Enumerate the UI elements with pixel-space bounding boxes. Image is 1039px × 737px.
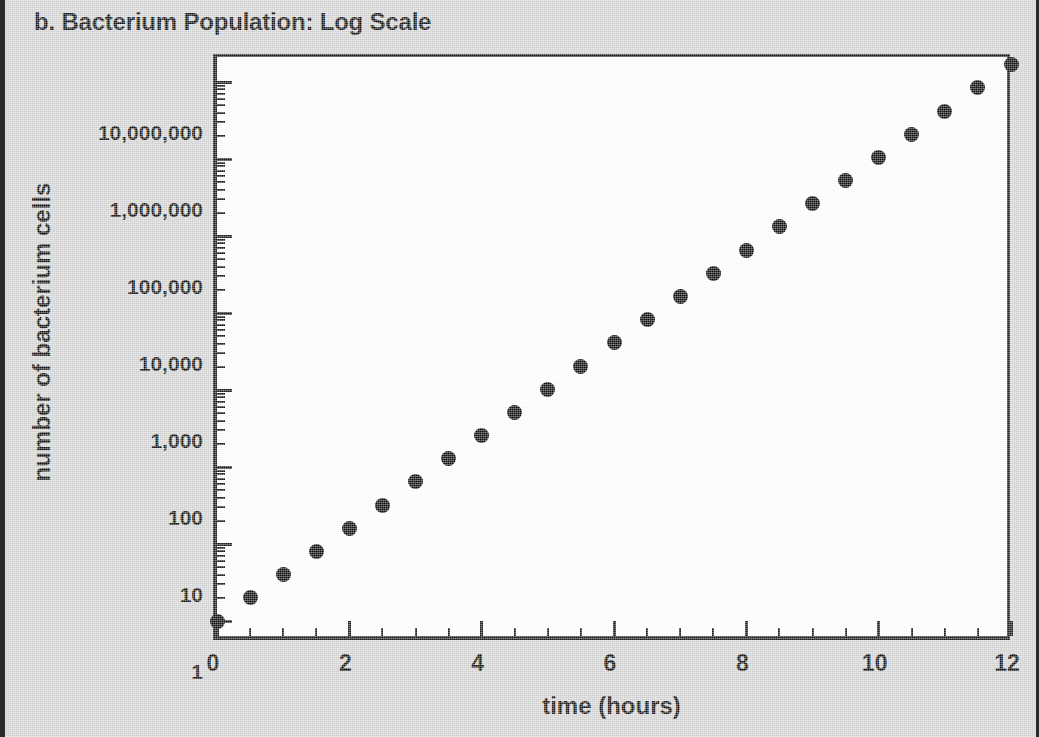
data-point — [309, 544, 324, 559]
y-axis-minor-tick — [217, 247, 225, 249]
y-axis-minor-tick — [217, 443, 225, 445]
y-axis-minor-tick — [217, 478, 225, 480]
y-axis-minor-tick — [217, 470, 225, 472]
data-point — [276, 567, 291, 582]
y-axis-minor-tick — [217, 473, 225, 475]
data-point — [772, 219, 787, 234]
y-axis-tick-labels: 1101001,00010,000100,0001,000,00010,000,… — [5, 54, 213, 640]
y-axis-major-tick — [217, 389, 232, 392]
y-axis-minor-tick — [217, 550, 225, 552]
y-axis-minor-tick — [217, 189, 225, 191]
data-point — [640, 312, 655, 327]
plot-area — [213, 54, 1010, 640]
y-axis-tick-label: 10 — [180, 583, 213, 607]
plot-inner — [217, 57, 1007, 636]
y-axis-tick-label: 100 — [168, 506, 213, 530]
x-axis-tick-label: 12 — [994, 650, 1020, 677]
y-axis-minor-tick — [217, 352, 225, 354]
y-axis-minor-tick — [217, 93, 225, 95]
x-axis-major-tick — [613, 621, 616, 636]
y-axis-minor-tick — [217, 412, 225, 414]
y-axis-minor-tick — [217, 242, 225, 244]
x-axis-major-tick — [348, 621, 351, 636]
x-axis-minor-tick — [547, 628, 549, 636]
data-point — [573, 359, 588, 374]
y-axis-minor-tick — [217, 366, 225, 368]
figure-panel: b. Bacterium Population: Log Scale numbe… — [0, 0, 1039, 737]
data-point — [210, 614, 225, 629]
y-axis-minor-tick — [217, 483, 225, 485]
y-axis-tick-label: 1,000,000 — [110, 198, 213, 222]
x-axis-minor-tick — [415, 628, 417, 636]
x-axis-tick-label: 0 — [207, 650, 220, 677]
y-axis-minor-tick — [217, 393, 225, 395]
y-axis-minor-tick — [217, 170, 225, 172]
y-axis-minor-tick — [217, 175, 225, 177]
data-point — [408, 474, 423, 489]
x-axis-major-tick — [877, 621, 880, 636]
y-axis-major-tick — [217, 81, 232, 84]
x-axis-minor-tick — [812, 628, 814, 636]
x-axis-minor-tick — [282, 628, 284, 636]
y-axis-minor-tick — [217, 401, 225, 403]
y-axis-minor-tick — [217, 181, 225, 183]
x-axis-tick-label: 10 — [862, 650, 888, 677]
data-point — [904, 127, 919, 142]
x-axis-tick-label: 6 — [604, 650, 617, 677]
y-axis-tick-label: 100,000 — [127, 275, 213, 299]
y-axis-major-tick — [217, 235, 232, 238]
data-point — [375, 498, 390, 513]
data-point — [871, 150, 886, 165]
y-axis-tick-label: 10,000 — [139, 352, 213, 376]
x-axis-minor-tick — [514, 628, 516, 636]
y-axis-minor-tick — [217, 88, 225, 90]
x-axis-major-tick — [1010, 621, 1013, 636]
y-axis-major-tick — [217, 543, 232, 546]
y-axis-major-tick — [217, 466, 232, 469]
y-axis-tick-label: 10,000,000 — [98, 121, 213, 145]
y-axis-minor-tick — [217, 583, 225, 585]
y-axis-minor-tick — [217, 85, 225, 87]
data-point — [474, 428, 489, 443]
data-point — [673, 289, 688, 304]
data-point — [607, 335, 622, 350]
y-axis-minor-tick — [217, 104, 225, 106]
x-axis-minor-tick — [315, 628, 317, 636]
data-point — [1004, 57, 1019, 72]
x-axis-minor-tick — [845, 628, 847, 636]
y-axis-minor-tick — [217, 266, 225, 268]
data-point — [540, 382, 555, 397]
chart-title: b. Bacterium Population: Log Scale — [34, 8, 431, 36]
data-point — [243, 590, 258, 605]
x-axis-major-tick — [745, 621, 748, 636]
x-axis-minor-tick — [249, 628, 251, 636]
data-point — [739, 243, 754, 258]
y-axis-minor-tick — [217, 406, 225, 408]
y-axis-minor-tick — [217, 566, 225, 568]
y-axis-minor-tick — [217, 506, 225, 508]
data-point — [441, 451, 456, 466]
x-axis-minor-tick — [679, 628, 681, 636]
x-axis-minor-tick — [580, 628, 582, 636]
y-axis-minor-tick — [217, 165, 225, 167]
y-axis-minor-tick — [217, 520, 225, 522]
y-axis-minor-tick — [217, 420, 225, 422]
data-point — [507, 405, 522, 420]
y-axis-tick-label: 1,000 — [150, 429, 213, 453]
data-point — [970, 80, 985, 95]
y-axis-minor-tick — [217, 239, 225, 241]
y-axis-minor-tick — [217, 329, 225, 331]
y-axis-minor-tick — [217, 258, 225, 260]
data-point — [706, 266, 721, 281]
y-axis-minor-tick — [217, 343, 225, 345]
y-axis-minor-tick — [217, 121, 225, 123]
y-axis-minor-tick — [217, 555, 225, 557]
y-axis-minor-tick — [217, 319, 225, 321]
x-axis-tick-label: 2 — [339, 650, 352, 677]
y-axis-minor-tick — [217, 112, 225, 114]
data-point — [838, 173, 853, 188]
x-axis-tick-labels: 024681012 — [213, 650, 1010, 684]
x-axis-minor-tick — [448, 628, 450, 636]
x-axis-tick-label: 8 — [736, 650, 749, 677]
y-axis-minor-tick — [217, 429, 225, 431]
